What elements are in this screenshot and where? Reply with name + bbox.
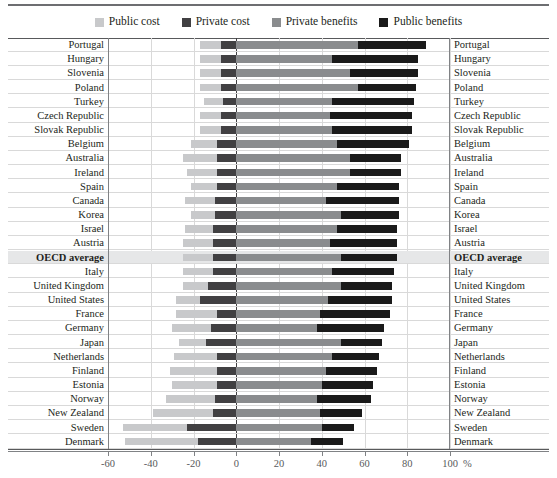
bar-segment-private-benefits <box>236 353 332 361</box>
row-label-right: OECD average <box>454 251 549 265</box>
bar-segment-public-benefits <box>332 55 418 63</box>
row-bars <box>108 251 450 265</box>
chart-row: DenmarkDenmark <box>8 435 549 449</box>
bar-segment-private-cost <box>217 367 236 375</box>
legend-item-private-cost[interactable]: Private cost <box>182 16 250 28</box>
chart-row: Czech RepublicCzech Republic <box>8 109 549 123</box>
bar-segment-public-cost <box>185 225 213 233</box>
chart-row: AustraliaAustralia <box>8 151 549 165</box>
chart-row: TurkeyTurkey <box>8 95 549 109</box>
bar-segment-public-benefits <box>341 339 382 347</box>
bar-segment-private-cost <box>187 424 236 432</box>
bar-segment-public-benefits <box>320 409 363 417</box>
bar-segment-private-cost <box>198 438 236 446</box>
row-label-right: Portugal <box>454 38 549 52</box>
bar-segment-private-benefits <box>236 140 336 148</box>
row-label-right: Slovak Republic <box>454 123 549 137</box>
bar-segment-private-benefits <box>236 112 330 120</box>
legend-item-private-benefits[interactable]: Private benefits <box>272 16 358 28</box>
bar-segment-public-benefits <box>341 282 392 290</box>
bar-segment-private-cost <box>217 183 236 191</box>
row-label-right: Norway <box>454 392 549 406</box>
bar-segment-public-cost <box>200 41 221 49</box>
axis-tick <box>236 451 237 456</box>
legend-item-public-cost[interactable]: Public cost <box>95 16 160 28</box>
bar-segment-private-benefits <box>236 126 332 134</box>
bar-segment-public-benefits <box>317 324 383 332</box>
legend-swatch-icon <box>95 18 104 27</box>
axis-tick <box>279 451 280 456</box>
row-bars <box>108 378 450 392</box>
axis-tick <box>151 451 152 456</box>
legend-item-label: Public benefits <box>393 16 462 28</box>
row-label-left: Spain <box>8 180 104 194</box>
bar-segment-public-cost <box>200 112 221 120</box>
row-label-right: Ireland <box>454 166 549 180</box>
bar-segment-public-cost <box>172 381 217 389</box>
row-bars <box>108 336 450 350</box>
axis-unit-label: % <box>463 458 472 469</box>
row-bars <box>108 350 450 364</box>
row-label-left: United Kingdom <box>8 279 104 293</box>
bar-segment-public-benefits <box>322 381 373 389</box>
row-label-right: New Zealand <box>454 406 549 420</box>
chart-row: United KingdomUnited Kingdom <box>8 279 549 293</box>
bar-segment-public-cost <box>183 268 213 276</box>
row-label-right: Denmark <box>454 435 549 449</box>
row-label-right: Israel <box>454 222 549 236</box>
row-bars <box>108 236 450 250</box>
bar-segment-public-cost <box>172 324 210 332</box>
legend-item-public-benefits[interactable]: Public benefits <box>379 16 462 28</box>
bar-segment-private-benefits <box>236 339 341 347</box>
bar-segment-private-cost <box>221 69 236 77</box>
row-label-left: Ireland <box>8 166 104 180</box>
bar-segment-public-cost <box>125 438 198 446</box>
bar-segment-private-cost <box>206 339 236 347</box>
legend-swatch-icon <box>182 18 191 27</box>
row-label-left: Netherlands <box>8 350 104 364</box>
row-bars <box>108 38 450 52</box>
row-label-right: Australia <box>454 151 549 165</box>
bar-segment-private-benefits <box>236 268 332 276</box>
axis-tick <box>322 451 323 456</box>
bar-segment-public-cost <box>166 395 215 403</box>
row-label-left: Germany <box>8 321 104 335</box>
chart-row: CanadaCanada <box>8 194 549 208</box>
row-bars <box>108 137 450 151</box>
bar-segment-private-cost <box>215 211 236 219</box>
row-label-right: Spain <box>454 180 549 194</box>
bar-segment-private-benefits <box>236 169 349 177</box>
row-label-right: Belgium <box>454 137 549 151</box>
bar-segment-public-benefits <box>332 126 411 134</box>
row-label-right: Sweden <box>454 421 549 435</box>
chart-row: IsraelIsrael <box>8 222 549 236</box>
bar-segment-public-benefits <box>341 211 399 219</box>
row-bars <box>108 293 450 307</box>
row-label-right: Japan <box>454 336 549 350</box>
axis-tick-label: 100 <box>442 458 458 469</box>
row-label-left: Korea <box>8 208 104 222</box>
chart-row: OECD averageOECD average <box>8 251 549 265</box>
bar-segment-private-cost <box>213 239 237 247</box>
row-label-left: Canada <box>8 194 104 208</box>
bar-segment-private-cost <box>217 310 236 318</box>
bar-segment-public-benefits <box>330 112 411 120</box>
bar-segment-public-cost <box>176 296 200 304</box>
bar-segment-public-benefits <box>337 183 399 191</box>
bar-segment-public-cost <box>176 310 217 318</box>
bar-segment-private-benefits <box>236 197 326 205</box>
row-label-left: Australia <box>8 151 104 165</box>
bar-segment-private-benefits <box>236 225 336 233</box>
chart-row: HungaryHungary <box>8 52 549 66</box>
bar-segment-private-benefits <box>236 254 341 262</box>
bar-segment-private-cost <box>217 381 236 389</box>
bar-segment-private-cost <box>221 126 236 134</box>
bar-segment-private-cost <box>221 112 236 120</box>
bar-segment-public-cost <box>204 98 223 106</box>
bar-segment-private-benefits <box>236 395 317 403</box>
chart-page: Public costPrivate costPrivate benefitsP… <box>0 0 557 478</box>
row-label-left: Italy <box>8 265 104 279</box>
axis-tick-label: -20 <box>187 458 201 469</box>
axis-tick-label: 60 <box>359 458 370 469</box>
bar-segment-public-benefits <box>326 367 377 375</box>
